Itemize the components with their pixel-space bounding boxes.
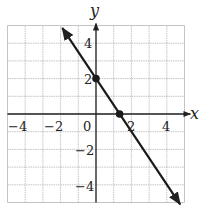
x-tick-label: −2 (44, 120, 63, 133)
axes (8, 24, 191, 203)
x-axis-label: x (190, 106, 199, 122)
x-tick-label: 2 (127, 120, 135, 133)
x-tick-label: 0 (83, 120, 91, 133)
y-axis-label: y (90, 3, 99, 19)
x-tick-label: −4 (8, 120, 27, 133)
y-tick-label: 4 (84, 37, 92, 50)
y-tick-label: −4 (75, 180, 94, 193)
y-tick-label: 2 (84, 73, 92, 86)
x-tick-label: 4 (162, 120, 170, 133)
y-tick-label: −2 (75, 144, 94, 157)
coordinate-plane (0, 0, 205, 206)
